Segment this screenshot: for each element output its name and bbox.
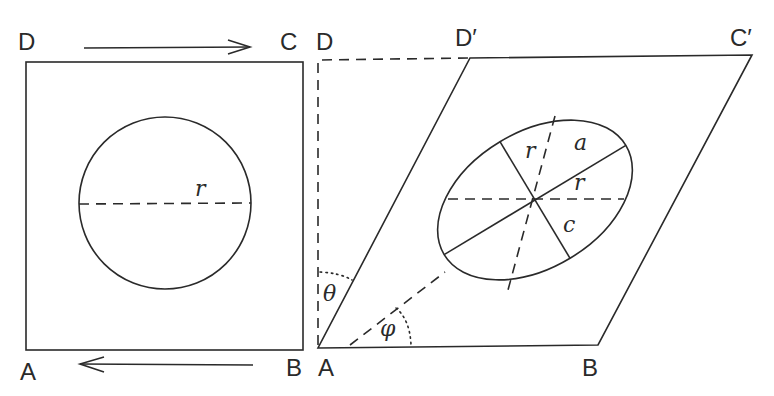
angle-label-phi: φ (380, 318, 395, 340)
circle-radius-label: r (195, 178, 206, 200)
original-square (26, 62, 303, 350)
circle-diameter-dashed (79, 203, 251, 204)
corner-label-c-prime: C′ (730, 26, 752, 50)
corner-label-b-left: B (286, 356, 302, 380)
corner-label-d-right: D (316, 30, 333, 54)
theta-arc (320, 272, 352, 280)
corner-label-d-left: D (18, 30, 35, 54)
angle-label-theta: θ (323, 283, 336, 305)
corner-label-a-right: A (318, 356, 334, 380)
shear-deformation-figure: D C A B r D D′ C′ A B r a r c θ φ (0, 0, 774, 396)
ellipse-label-a: a (574, 132, 587, 154)
arrow-right-icon (84, 40, 250, 54)
ellipse-label-c: c (563, 214, 575, 236)
arrow-left-icon (80, 357, 253, 372)
corner-label-c-left: C (280, 30, 297, 54)
corner-label-a-left: A (20, 360, 36, 384)
phi-arc (396, 308, 411, 345)
strain-ellipse-group (409, 87, 661, 313)
ellipse-label-r-upper: r (525, 140, 536, 162)
ellipse-label-r-horizontal: r (574, 172, 585, 194)
corner-label-d-prime: D′ (455, 26, 477, 50)
left-panel (26, 40, 303, 372)
right-panel (318, 55, 752, 348)
corner-label-b-right: B (582, 356, 598, 380)
